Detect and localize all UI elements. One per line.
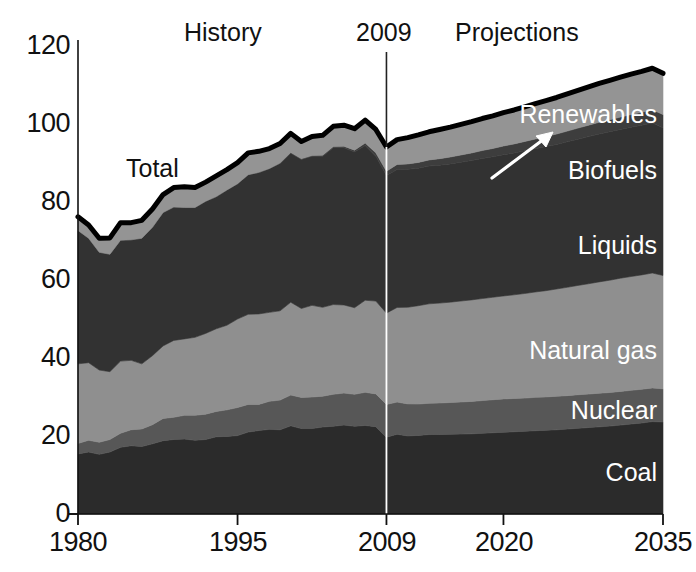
x-tick-2009: 2009 <box>327 529 447 556</box>
y-tick-80: 80 <box>4 188 70 215</box>
y-tick-20: 20 <box>4 422 70 449</box>
total-series-label: Total <box>126 156 179 181</box>
year-marker-annotation: 2009 <box>356 20 412 45</box>
x-tick-1995: 1995 <box>178 529 298 556</box>
x-tick-2035: 2035 <box>603 529 696 556</box>
x-tick-1980: 1980 <box>18 529 138 556</box>
y-tick-40: 40 <box>4 344 70 371</box>
natural-gas-series-label: Natural gas <box>395 338 657 363</box>
y-tick-100: 100 <box>4 110 70 137</box>
y-tick-120: 120 <box>4 32 70 59</box>
liquids-series-label: Liquids <box>395 233 657 258</box>
y-tick-60: 60 <box>4 266 70 293</box>
biofuels-series-label: Biofuels <box>395 158 657 183</box>
x-tick-2020: 2020 <box>444 529 564 556</box>
renewables-series-label: Renewables <box>395 102 657 127</box>
history-annotation: History <box>184 20 262 45</box>
nuclear-series-label: Nuclear <box>395 398 657 423</box>
y-tick-0: 0 <box>4 500 70 527</box>
coal-series-label: Coal <box>395 460 657 485</box>
projections-annotation: Projections <box>455 20 579 45</box>
